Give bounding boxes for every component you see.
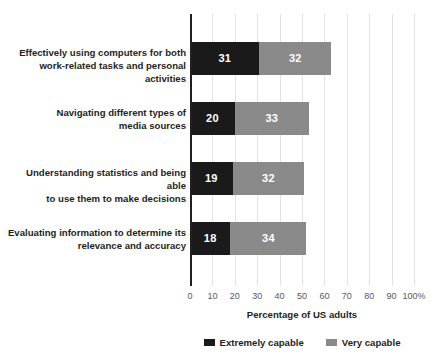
bar-value-label: 20 [206, 113, 219, 124]
bar-value-label: 31 [218, 53, 231, 64]
bar-row[interactable]: 2033 [190, 102, 309, 135]
x-tick-label-90: 90 [387, 291, 397, 301]
bar-segment-very-capable[interactable]: 33 [235, 102, 309, 135]
legend-label: Extremely capable [220, 337, 304, 348]
chart-legend: Extremely capableVery capable [190, 337, 414, 348]
bar-value-label: 18 [204, 233, 217, 244]
x-axis-title: Percentage of US adults [190, 309, 414, 320]
bar-value-label: 32 [262, 173, 275, 184]
gridline-80 [369, 14, 370, 286]
category-label-line: Evaluating information to determine its [6, 226, 186, 239]
bar-row[interactable]: 1834 [190, 222, 306, 255]
bar-segment-extremely-capable[interactable]: 18 [190, 222, 230, 255]
category-label: Navigating different types ofmedia sourc… [6, 106, 186, 132]
category-label: Understanding statistics and being ablet… [6, 166, 186, 205]
category-label-line: to use them to make decisions [6, 192, 186, 205]
legend-item[interactable]: Very capable [326, 337, 401, 348]
bar-row[interactable]: 1932 [190, 162, 304, 195]
x-tick-label-100: 100% [402, 291, 425, 301]
category-label-line: work-related tasks and personal activiti… [6, 59, 186, 85]
x-tick-label-50: 50 [297, 291, 307, 301]
gridline-70 [347, 14, 348, 286]
bar-segment-very-capable[interactable]: 32 [259, 42, 331, 75]
plot-area: 3132203319321834 [190, 14, 414, 286]
stacked-bar-chart: 3132203319321834 Effectively using compu… [0, 0, 434, 361]
x-tick-label-40: 40 [275, 291, 285, 301]
category-label-line: Understanding statistics and being able [6, 166, 186, 192]
x-tick-label-60: 60 [319, 291, 329, 301]
category-label-line: relevance and accuracy [6, 239, 186, 252]
x-tick-label-0: 0 [187, 291, 192, 301]
bar-value-label: 34 [262, 233, 275, 244]
x-tick-label-70: 70 [342, 291, 352, 301]
bar-row[interactable]: 3132 [190, 42, 331, 75]
bar-value-label: 32 [289, 53, 302, 64]
category-label: Evaluating information to determine itsr… [6, 226, 186, 252]
bar-value-label: 19 [205, 173, 218, 184]
legend-label: Very capable [342, 337, 401, 348]
bar-value-label: 33 [265, 113, 278, 124]
x-tick-label-80: 80 [364, 291, 374, 301]
x-tick-label-10: 10 [207, 291, 217, 301]
category-label: Effectively using computers for bothwork… [6, 46, 186, 85]
bar-segment-extremely-capable[interactable]: 20 [190, 102, 235, 135]
x-tick-label-30: 30 [252, 291, 262, 301]
bar-segment-extremely-capable[interactable]: 31 [190, 42, 259, 75]
legend-item[interactable]: Extremely capable [204, 337, 304, 348]
gridline-90 [392, 14, 393, 286]
bar-segment-extremely-capable[interactable]: 19 [190, 162, 233, 195]
category-label-line: media sources [6, 119, 186, 132]
legend-swatch-icon [204, 339, 215, 346]
bar-segment-very-capable[interactable]: 32 [233, 162, 305, 195]
x-tick-label-20: 20 [230, 291, 240, 301]
gridline-100 [414, 14, 415, 286]
category-label-line: Effectively using computers for both [6, 46, 186, 59]
y-axis-line [190, 14, 192, 286]
bar-segment-very-capable[interactable]: 34 [230, 222, 306, 255]
category-label-line: Navigating different types of [6, 106, 186, 119]
legend-swatch-icon [326, 339, 337, 346]
